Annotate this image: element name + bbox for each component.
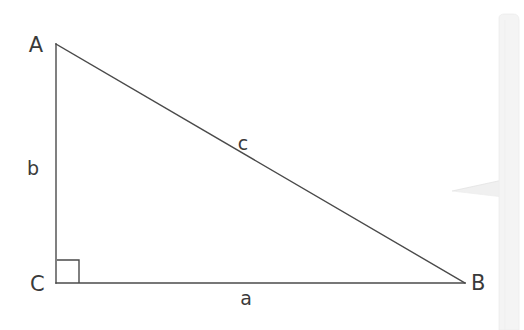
side-label-c: c bbox=[238, 132, 248, 154]
vertex-label-b: B bbox=[471, 271, 485, 295]
vertex-label-c: C bbox=[30, 272, 45, 296]
right-triangle-diagram: A B C a b c bbox=[0, 0, 524, 330]
diagram-canvas: A B C a b c bbox=[0, 0, 524, 330]
vertex-label-a: A bbox=[29, 33, 44, 57]
side-label-b: b bbox=[27, 157, 39, 179]
side-label-a: a bbox=[240, 287, 252, 309]
